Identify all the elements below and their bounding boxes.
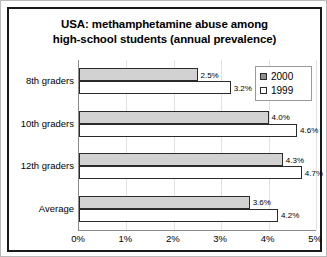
legend-swatch-icon <box>260 87 267 94</box>
x-tick-label: 2% <box>166 233 180 244</box>
x-tick-label: 5% <box>308 233 322 244</box>
legend-label: 2000 <box>271 71 293 82</box>
bar-row: 3.6% <box>79 196 316 209</box>
chart-title: USA: methamphetamine abuse among high-sc… <box>9 17 320 47</box>
bar-group: 4.0%4.6% <box>79 111 316 137</box>
bar-value-label: 3.6% <box>250 198 271 207</box>
legend-item-1999[interactable]: 1999 <box>260 85 307 96</box>
bar-1999-12th-graders[interactable] <box>79 166 302 179</box>
chart-legend: 20001999 <box>255 66 312 101</box>
bar-row: 4.7% <box>79 166 316 179</box>
chart-title-line-1: USA: methamphetamine abuse among <box>9 17 320 32</box>
category-label-average: Average <box>13 203 74 214</box>
bar-value-label: 2.5% <box>198 70 219 79</box>
category-label-12th-graders: 12th graders <box>13 160 74 171</box>
category-label-8th-graders: 8th graders <box>13 75 74 86</box>
bar-value-label: 4.6% <box>297 126 318 135</box>
x-tick-label: 0% <box>71 233 85 244</box>
bar-2000-average[interactable] <box>79 196 250 209</box>
bar-value-label: 4.7% <box>302 168 323 177</box>
bar-value-label: 3.2% <box>231 83 252 92</box>
x-axis-tick-labels: 0%1%2%3%4%5% <box>78 233 316 249</box>
bar-1999-10th-graders[interactable] <box>79 124 297 137</box>
bar-row: 4.0% <box>79 111 316 124</box>
bar-2000-12th-graders[interactable] <box>79 153 283 166</box>
bar-value-label: 4.2% <box>278 211 299 220</box>
x-tick-label: 4% <box>261 233 275 244</box>
legend-swatch-icon <box>260 73 267 80</box>
bar-row: 4.3% <box>79 153 316 166</box>
bar-2000-10th-graders[interactable] <box>79 111 269 124</box>
category-label-10th-graders: 10th graders <box>13 118 74 129</box>
legend-label: 1999 <box>271 85 293 96</box>
bar-group: 4.3%4.7% <box>79 153 316 179</box>
chart-container: USA: methamphetamine abuse among high-sc… <box>0 0 327 257</box>
bar-1999-average[interactable] <box>79 209 278 222</box>
bar-1999-8th-graders[interactable] <box>79 81 231 94</box>
category-axis-labels: 8th graders10th graders12th gradersAvera… <box>13 60 74 231</box>
bar-value-label: 4.3% <box>283 155 304 164</box>
legend-item-2000[interactable]: 2000 <box>260 71 307 82</box>
bar-2000-8th-graders[interactable] <box>79 68 198 81</box>
x-tick-label: 1% <box>119 233 133 244</box>
x-tick-label: 3% <box>213 233 227 244</box>
bar-row: 4.6% <box>79 124 316 137</box>
bar-value-label: 4.0% <box>269 113 290 122</box>
chart-inner-border: USA: methamphetamine abuse among high-sc… <box>7 7 322 252</box>
chart-title-line-2: high-school students (annual prevalence) <box>9 32 320 47</box>
bar-row: 4.2% <box>79 209 316 222</box>
gridline <box>316 60 317 230</box>
bar-group: 3.6%4.2% <box>79 196 316 222</box>
